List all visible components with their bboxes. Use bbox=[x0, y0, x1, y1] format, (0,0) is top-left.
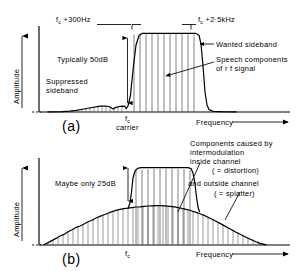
panel-a-suppressed-label-line2: sideband bbox=[46, 86, 78, 95]
panel-b-callout-line5: and outside channel bbox=[188, 179, 259, 188]
panel-a-caption: (a) bbox=[62, 118, 81, 134]
panel-a-suppressed-label-line1: Suppressed bbox=[46, 77, 88, 86]
panel-b-callout-line2: intermodulation bbox=[190, 148, 244, 157]
panel-a-x-axis-label: Frequency bbox=[196, 118, 233, 127]
panel-a-dimension-label: Typically 50dB bbox=[57, 55, 108, 64]
panel-b-y-axis-label: Amplitude bbox=[12, 202, 21, 237]
panel-a-lower-edge-label: fc +300Hz bbox=[56, 15, 91, 25]
spectrum-figure: Amplitude Frequency bbox=[0, 0, 301, 271]
panel-b-callout-line6: ( = splatter) bbox=[214, 189, 255, 198]
panel-b-dimension-label: Maybe only 25dB bbox=[55, 179, 116, 188]
panel-b-callout-line4: ( = distortion) bbox=[212, 166, 259, 175]
panel-b-callout-line3: inside channel bbox=[190, 157, 241, 166]
panel-b-callout-line1: Components caused by bbox=[190, 139, 273, 148]
panel-a-speech-callout-line2: of r f signal bbox=[216, 64, 256, 73]
panel-a-carrier-word: carrier bbox=[116, 123, 139, 132]
panel-a-y-axis-label: Amplitude bbox=[12, 69, 21, 104]
panel-a-wanted-callout-label: Wanted sideband bbox=[216, 40, 277, 49]
panel-a-speech-callout-line1: Speech components bbox=[216, 55, 288, 64]
panel-a-upper-edge-label: fc +2·5kHz bbox=[198, 15, 235, 25]
panel-b-caption: (b) bbox=[62, 251, 81, 267]
panel-b-x-axis-label: Frequency bbox=[196, 250, 233, 259]
